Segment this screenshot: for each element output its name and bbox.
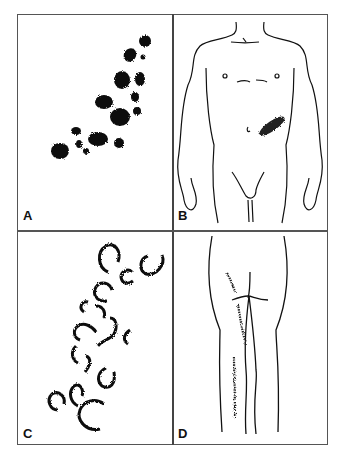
- panel-d-label: D: [178, 426, 187, 441]
- panel-c-rings: [49, 245, 163, 430]
- panel-c-label: C: [23, 426, 32, 441]
- panel-d-legs: [209, 236, 288, 434]
- figure-drawings: [0, 0, 342, 462]
- panel-b-body: [178, 22, 323, 223]
- panel-a-label: A: [23, 208, 32, 223]
- panel-b-lesion-patch: [257, 113, 287, 138]
- panel-d-lesion-streaks: [227, 273, 246, 418]
- panel-b-label: B: [178, 208, 187, 223]
- panel-a-lesions: [51, 35, 151, 159]
